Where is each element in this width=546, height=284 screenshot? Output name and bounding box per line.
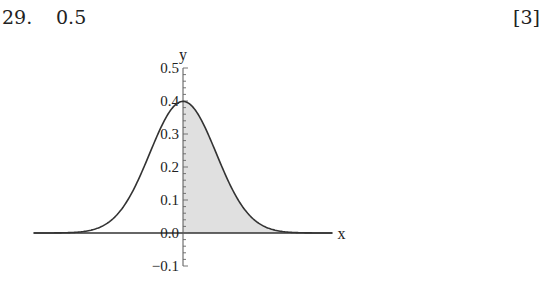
y-tick-label: 0.0 [160,225,179,241]
y-tick-label: 0.4 [160,93,179,109]
normal-distribution-chart: −0.10.00.10.20.30.40.5 x y [0,0,546,284]
y-tick-label: 0.5 [160,60,179,76]
x-axis-label: x [337,225,345,242]
y-tick-label: 0.2 [160,159,179,175]
y-axis: −0.10.00.10.20.30.40.5 [152,60,188,274]
shaded-area [183,101,332,233]
y-tick-label: 0.1 [160,192,179,208]
y-tick-label: 0.3 [160,126,179,142]
y-tick-label: −0.1 [152,258,179,274]
y-axis-label: y [179,46,187,64]
